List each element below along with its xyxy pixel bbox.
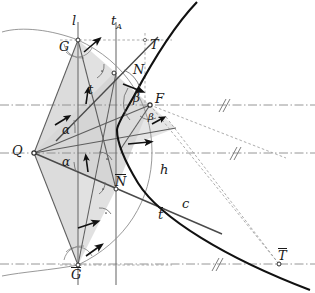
label-beta2: β <box>148 112 154 122</box>
label-h: h <box>160 163 168 176</box>
point-T <box>143 38 146 41</box>
right-angle-dot-icon <box>105 212 107 214</box>
hash-tick-icon <box>230 147 237 160</box>
label-G: G <box>59 40 69 53</box>
label-alpha1: α <box>62 124 70 136</box>
label-t: t <box>88 83 93 96</box>
hash-tick-icon <box>234 147 241 160</box>
label-c: c <box>182 197 189 210</box>
label-T: T <box>150 38 159 51</box>
curve-c <box>117 2 310 290</box>
label-l: l <box>72 14 76 27</box>
hash-tick-icon <box>219 99 226 112</box>
point-N <box>112 71 116 75</box>
shaded-regions <box>34 40 176 265</box>
label-beta1: β <box>133 92 140 104</box>
guide-aux-lower-right <box>166 117 279 264</box>
guide-F-ray-right <box>150 105 286 158</box>
hash-tick-icon <box>212 258 219 271</box>
label-tbar: t <box>158 208 163 221</box>
point-Q <box>32 151 36 155</box>
label-alpha2: α <box>62 156 70 168</box>
label-N: N <box>133 63 144 76</box>
point-G <box>76 38 80 42</box>
region-sliver-left <box>34 40 78 265</box>
hash-tick-icon <box>216 258 223 271</box>
right-angle-dot-icon <box>106 158 108 160</box>
label-Nbar: N <box>115 175 126 188</box>
right-angle-dot-icon <box>102 188 104 190</box>
conic-curve-c <box>117 2 310 290</box>
figure-canvas: ltAGTNFββtQααNhctGT <box>0 0 315 293</box>
right-angle-dot-icon <box>101 70 103 72</box>
parallel-hash-ticks <box>212 99 241 271</box>
label-Q: Q <box>12 144 23 157</box>
label-tA: tA <box>111 14 122 31</box>
label-F: F <box>155 92 164 105</box>
point-F <box>148 103 152 107</box>
label-Tbar: T <box>278 249 287 262</box>
label-Gbar: G <box>71 268 81 281</box>
hash-tick-icon <box>223 99 230 112</box>
arc-lower-left <box>2 265 78 276</box>
